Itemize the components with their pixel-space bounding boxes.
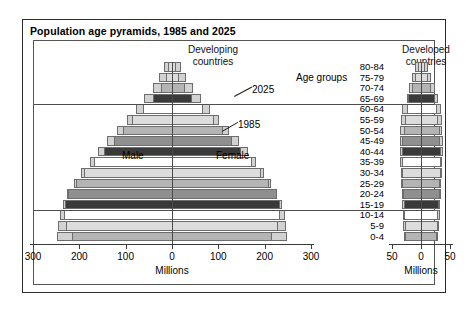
axis-developed-ticklabel-0: 50	[386, 251, 397, 262]
axis-developed-ticklabel-1: 0	[418, 251, 424, 262]
axis-developed: 50050Millions	[0, 0, 472, 318]
axis-developed-tick-0-1	[421, 244, 422, 249]
axis-developed-tick-50-2	[450, 244, 451, 249]
chart-figure: Population age pyramids, 1985 and 2025 D…	[0, 0, 472, 318]
axis-developed-ticklabel-2: 50	[444, 251, 455, 262]
axis-developed-title: Millions	[404, 265, 437, 276]
axis-developed-tick-50-0	[392, 244, 393, 249]
